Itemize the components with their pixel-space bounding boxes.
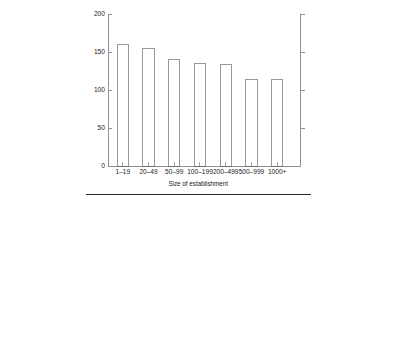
chart-figure: 200 150 100 50 0 <box>0 0 397 346</box>
x-tick-label-100-199: 100–199 <box>187 168 213 175</box>
y-tick-label-0: 0 <box>101 162 105 169</box>
bar-200-499 <box>220 64 231 166</box>
bar-50-99 <box>169 60 180 166</box>
y-tick-label-100: 100 <box>94 86 105 93</box>
y-tick-label-200: 200 <box>94 10 105 17</box>
x-axis-tick-labels: 1–19 20–49 50–99 100–199 200–499 500–999… <box>115 168 286 175</box>
bar-1-19 <box>117 44 128 166</box>
x-tick-label-1-19: 1–19 <box>115 168 130 175</box>
bar-500-999 <box>246 79 257 166</box>
x-tick-label-200-499: 200–499 <box>213 168 239 175</box>
bar-chart: 200 150 100 50 0 <box>0 0 397 207</box>
y-tick-label-150: 150 <box>94 48 105 55</box>
x-tick-label-20-49: 20–49 <box>139 168 158 175</box>
bar-100-199 <box>194 63 205 166</box>
x-tick-label-1000-plus: 1000+ <box>268 168 287 175</box>
bar-20-49 <box>143 48 154 166</box>
x-tick-label-50-99: 50–99 <box>165 168 184 175</box>
bar-1000-plus <box>271 79 282 166</box>
x-tick-label-500-999: 500–999 <box>239 168 265 175</box>
x-axis-title: Size of establishment <box>168 180 228 187</box>
y-tick-label-50: 50 <box>98 124 106 131</box>
